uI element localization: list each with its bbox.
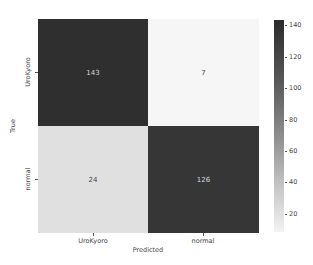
cell-true-urokyoro-pred-normal: 7 bbox=[148, 19, 259, 126]
x-tick-label-normal: normal bbox=[183, 237, 223, 245]
colorbar-label-40: 40 bbox=[289, 178, 297, 186]
cell-value: 126 bbox=[197, 176, 210, 184]
y-tick-label-urokyoro: UroKyoro bbox=[24, 52, 32, 92]
colorbar-tick bbox=[285, 120, 287, 121]
cell-value: 24 bbox=[89, 176, 98, 184]
y-tick-mark bbox=[35, 72, 38, 73]
colorbar-tick bbox=[285, 214, 287, 215]
x-tick-label-urokyoro: UroKyoro bbox=[73, 237, 113, 245]
y-tick-mark bbox=[35, 179, 38, 180]
cell-true-normal-pred-urokyoro: 24 bbox=[38, 126, 148, 233]
colorbar-tick bbox=[285, 182, 287, 183]
colorbar-label-140: 140 bbox=[289, 21, 301, 29]
colorbar-label-100: 100 bbox=[289, 84, 301, 92]
x-tick-mark bbox=[203, 233, 204, 236]
colorbar bbox=[274, 20, 284, 232]
x-tick-mark bbox=[93, 233, 94, 236]
y-tick-label-normal: normal bbox=[24, 159, 32, 199]
cell-value: 7 bbox=[201, 69, 205, 77]
cell-true-normal-pred-normal: 126 bbox=[148, 126, 259, 233]
cell-value: 143 bbox=[86, 69, 99, 77]
y-axis-label: True bbox=[9, 111, 17, 141]
x-axis-label: Predicted bbox=[128, 246, 168, 254]
colorbar-label-80: 80 bbox=[289, 116, 297, 124]
colorbar-tick bbox=[285, 151, 287, 152]
colorbar-tick bbox=[285, 88, 287, 89]
colorbar-label-20: 20 bbox=[289, 210, 297, 218]
colorbar-tick bbox=[285, 57, 287, 58]
colorbar-label-60: 60 bbox=[289, 147, 297, 155]
colorbar-tick bbox=[285, 25, 287, 26]
cell-true-urokyoro-pred-urokyoro: 143 bbox=[38, 19, 148, 126]
colorbar-label-120: 120 bbox=[289, 53, 301, 61]
